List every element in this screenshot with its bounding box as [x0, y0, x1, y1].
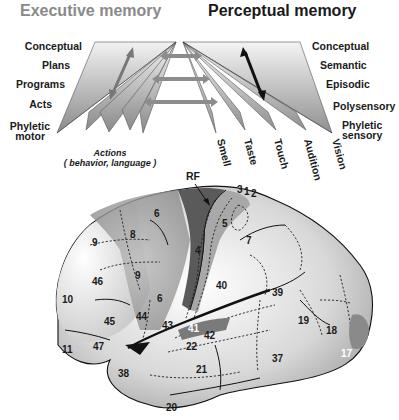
level-programs: Programs — [16, 78, 65, 90]
area-41: 41 — [188, 323, 200, 334]
area-6-upper: 6 — [154, 208, 160, 219]
level-conceptual-p: Conceptual — [312, 40, 369, 52]
area-18: 18 — [326, 325, 338, 336]
area-44: 44 — [136, 311, 148, 322]
area-40: 40 — [216, 280, 228, 291]
sense-touch: Touch — [272, 137, 292, 170]
area-7: 7 — [246, 235, 252, 246]
sense-vision: Vision — [330, 137, 350, 170]
level-conceptual: Conceptual — [25, 40, 82, 52]
level-acts: Acts — [29, 98, 52, 110]
level-polysensory: Polysensory — [333, 100, 396, 112]
area-9-lower: 9 — [135, 270, 141, 281]
area-17: 17 — [341, 348, 353, 359]
rf-label: RF — [186, 170, 201, 182]
level-episodic: Episodic — [326, 78, 370, 90]
area-45: 45 — [104, 316, 116, 327]
sense-labels: Smell Taste Touch Audition Vision — [215, 137, 350, 181]
perceptual-memory-title: Perceptual memory — [208, 2, 357, 19]
sense-audition: Audition — [302, 137, 325, 181]
memory-diagram: Executive memory Perceptual memory — [0, 0, 399, 420]
level-sensory: sensory — [342, 129, 382, 141]
area-42: 42 — [204, 330, 216, 341]
area-39: 39 — [272, 287, 284, 298]
area-47: 47 — [93, 341, 105, 352]
level-semantic: Semantic — [320, 59, 367, 71]
area-4: 4 — [195, 245, 201, 256]
area-2: 2 — [251, 188, 257, 199]
area-43: 43 — [162, 320, 174, 331]
area-1: 1 — [244, 186, 250, 197]
area-46: 46 — [92, 276, 104, 287]
area-10: 10 — [62, 294, 74, 305]
executive-levels: Conceptual Plans Programs Acts Phyletic … — [10, 40, 82, 142]
actions-label: Actions — [92, 148, 126, 158]
area-3: 3 — [237, 184, 243, 195]
level-plans: Plans — [42, 59, 70, 71]
area-22: 22 — [186, 341, 198, 352]
area-9-upper: 9 — [92, 237, 98, 248]
sense-smell: Smell — [215, 137, 234, 167]
actions-sublabel: ( behavior, language ) — [64, 158, 157, 168]
area-38: 38 — [118, 368, 130, 379]
area-20: 20 — [166, 402, 178, 413]
area-21: 21 — [196, 364, 208, 375]
sense-taste: Taste — [242, 137, 261, 166]
executive-memory-title: Executive memory — [20, 2, 162, 19]
area-11: 11 — [62, 344, 73, 355]
area-19: 19 — [298, 315, 310, 326]
level-motor: motor — [15, 130, 45, 142]
area-5: 5 — [222, 218, 228, 229]
brain-lateral-view — [56, 186, 372, 408]
area-6-lower: 6 — [157, 293, 163, 304]
area-37: 37 — [272, 353, 284, 364]
area-8: 8 — [130, 229, 136, 240]
